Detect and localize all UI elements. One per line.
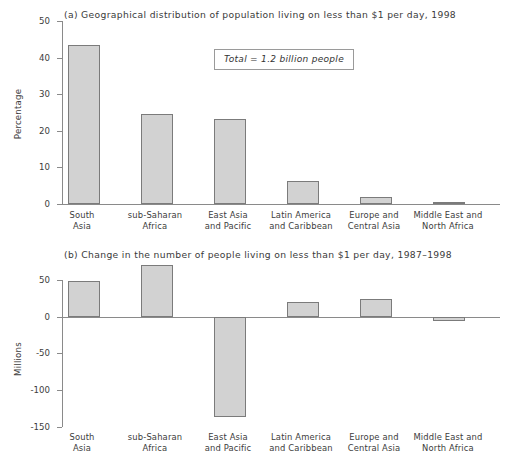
bar-panel-a-4 <box>360 197 392 204</box>
panel-a-total-annotation: Total = 1.2 billion people <box>214 49 354 70</box>
panel-b-tick-50: 50 <box>57 280 62 281</box>
panel-a-category-label-5: Middle East and North Africa <box>401 210 495 232</box>
panel-b-tick-0: 0 <box>57 317 62 318</box>
panel-a-tick-30: 30 <box>57 94 62 95</box>
panel-a-x-axis <box>62 204 500 205</box>
panel-a-tick-label-40: 40 <box>39 53 50 63</box>
figure-root: (a) Geographical distribution of populat… <box>0 0 508 469</box>
panel-a-tick-50: 50 <box>57 21 62 22</box>
chart-panel-a: (a) Geographical distribution of populat… <box>0 0 508 240</box>
bar-panel-b-0 <box>68 281 100 317</box>
panel-b-tick-label-neg100: -100 <box>30 385 50 395</box>
panel-b-tick-label-50: 50 <box>39 275 50 285</box>
panel-a-title: (a) Geographical distribution of populat… <box>64 9 500 20</box>
bar-panel-b-5 <box>433 317 465 321</box>
panel-b-tick-neg50: -50 <box>57 353 62 354</box>
panel-b-category-label-0: South Asia <box>42 432 122 454</box>
panel-b-tick-label-neg150: -150 <box>30 422 50 432</box>
panel-b-category-label-3: Latin America and Caribbean <box>258 432 344 454</box>
panel-a-tick-label-50: 50 <box>39 16 50 26</box>
panel-a-tick-20: 20 <box>57 131 62 132</box>
panel-a-tick-label-20: 20 <box>39 126 50 136</box>
bar-panel-a-5 <box>433 202 465 205</box>
panel-a-tick-10: 10 <box>57 167 62 168</box>
panel-b-tick-label-neg50: -50 <box>36 348 50 358</box>
panel-a-y-axis-label: Percentage <box>13 74 23 154</box>
panel-b-title: (b) Change in the number of people livin… <box>64 249 500 260</box>
panel-a-category-label-3: Latin America and Caribbean <box>258 210 344 232</box>
panel-a-tick-label-10: 10 <box>39 162 50 172</box>
panel-b-category-label-5: Middle East and North Africa <box>401 432 495 454</box>
panel-a-category-label-2: East Asia and Pacific <box>188 210 268 232</box>
panel-b-category-label-1: sub-Saharan Africa <box>115 432 195 454</box>
panel-b-y-axis-label: Millions <box>13 319 23 399</box>
bar-panel-a-3 <box>287 181 319 204</box>
panel-b-tick-neg100: -100 <box>57 390 62 391</box>
bar-panel-a-2 <box>214 119 246 204</box>
panel-a-tick-40: 40 <box>57 58 62 59</box>
panel-a-category-label-0: South Asia <box>42 210 122 232</box>
panel-b-category-label-2: East Asia and Pacific <box>188 432 268 454</box>
panel-b-tick-neg150: -150 <box>57 427 62 428</box>
panel-a-tick-label-0: 0 <box>45 199 50 209</box>
panel-b-plot-area: Millions 50 0 -50 -100 -150 <box>62 280 500 427</box>
panel-a-tick-0: 0 <box>57 204 62 205</box>
panel-a-category-label-1: sub-Saharan Africa <box>115 210 195 232</box>
bar-panel-b-2 <box>214 317 246 418</box>
panel-b-tick-label-0: 0 <box>45 312 50 322</box>
bar-panel-b-1 <box>141 265 173 316</box>
panel-a-y-axis <box>62 21 63 205</box>
bar-panel-b-3 <box>287 302 319 317</box>
panel-a-tick-label-30: 30 <box>39 89 50 99</box>
bar-panel-a-0 <box>68 45 100 204</box>
bar-panel-a-1 <box>141 114 173 204</box>
bar-panel-b-4 <box>360 299 392 317</box>
panel-b-y-axis <box>62 280 63 427</box>
